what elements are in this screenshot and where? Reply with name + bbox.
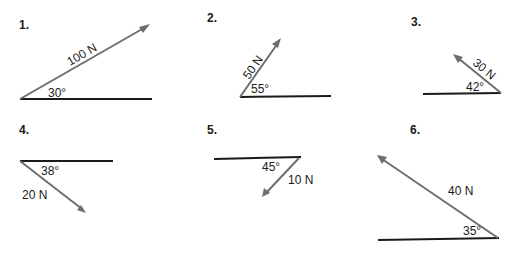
baseline bbox=[240, 96, 331, 97]
problem-1: 1. 100 N 30° bbox=[19, 18, 152, 100]
force-label: 10 N bbox=[288, 173, 313, 187]
problem-number: 6. bbox=[410, 123, 420, 137]
problem-5: 5. 10 N 45° bbox=[207, 123, 313, 197]
angle-label: 42° bbox=[466, 80, 484, 94]
baseline bbox=[423, 93, 501, 94]
problem-3: 3. 30 N 42° bbox=[411, 15, 501, 94]
problem-number: 4. bbox=[19, 123, 29, 137]
problem-number: 3. bbox=[411, 15, 421, 29]
angle-label: 30° bbox=[48, 86, 66, 100]
arrowhead-icon bbox=[377, 155, 387, 164]
force-label: 20 N bbox=[22, 188, 47, 202]
force-label: 40 N bbox=[448, 184, 473, 198]
arrowhead-icon bbox=[272, 38, 281, 48]
problem-number: 5. bbox=[207, 123, 217, 137]
problem-6: 6. 40 N 35° bbox=[377, 123, 499, 240]
baseline bbox=[378, 238, 499, 240]
problem-number: 2. bbox=[207, 11, 217, 25]
angle-label: 35° bbox=[463, 224, 481, 238]
angle-label: 38° bbox=[41, 164, 59, 178]
baseline bbox=[214, 157, 301, 159]
problem-2: 2. 50 N 55° bbox=[207, 11, 331, 97]
angle-label: 45° bbox=[262, 160, 280, 174]
force-vector-diagrams: 1. 100 N 30° 2. 50 N 55° 3. 30 N 42° 4. … bbox=[0, 0, 514, 275]
problem-4: 4. 20 N 38° bbox=[19, 123, 113, 213]
angle-label: 55° bbox=[251, 82, 269, 96]
force-vector bbox=[20, 28, 144, 99]
problem-number: 1. bbox=[19, 18, 29, 32]
arrowhead-icon bbox=[139, 24, 150, 33]
